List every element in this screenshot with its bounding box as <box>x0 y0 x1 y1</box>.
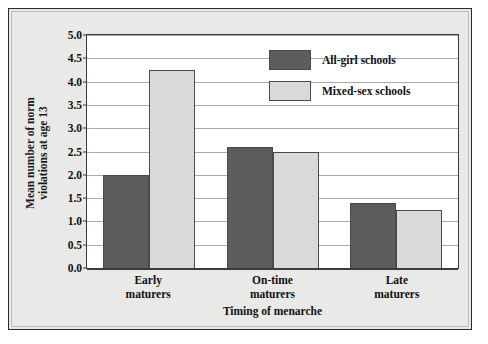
y-axis-title: Mean number of norm violations at age 13 <box>23 37 51 269</box>
y-axis-tick-label: 2.0 <box>68 169 82 181</box>
y-axis-tick-label: 4.0 <box>68 76 82 88</box>
legend-swatch-icon <box>269 81 311 101</box>
x-axis-tick-label: On-time maturers <box>210 273 334 301</box>
y-axis-tick-label: 2.5 <box>68 146 82 158</box>
figure-panel: Mean number of norm violations at age 13… <box>8 8 472 330</box>
y-axis-tick-label: 3.0 <box>68 122 82 134</box>
gridline <box>87 268 458 270</box>
bar-group <box>87 35 211 268</box>
y-axis-tick-label: 0.5 <box>68 239 82 251</box>
y-axis-tick-label: 1.0 <box>68 215 82 227</box>
legend-item-label: All-girl schools <box>322 54 396 66</box>
bar <box>350 203 396 268</box>
bar <box>149 70 195 268</box>
legend-item-mixed-sex-schools: Mixed-sex schools <box>269 81 410 101</box>
legend: All-girl schools Mixed-sex schools <box>269 50 410 101</box>
x-axis-title: Timing of menarche <box>86 305 459 317</box>
bar <box>396 210 442 268</box>
legend-item-label: Mixed-sex schools <box>322 85 410 97</box>
legend-swatch-icon <box>269 50 311 70</box>
y-axis-tick-label: 5.0 <box>68 29 82 41</box>
plot-area: 0.00.51.01.52.02.53.03.54.04.55.0 All-gi… <box>86 34 459 269</box>
x-axis-tick-label: Early maturers <box>86 273 210 301</box>
x-axis-tick-label: Late maturers <box>335 273 459 301</box>
bar <box>273 152 319 269</box>
bar <box>227 147 273 268</box>
x-axis-tick-labels: Early maturersOn-time maturersLate matur… <box>86 273 459 301</box>
y-axis-tick-label: 4.5 <box>68 52 82 64</box>
y-axis-tick-label: 1.5 <box>68 192 82 204</box>
legend-item-all-girl-schools: All-girl schools <box>269 50 410 70</box>
bar <box>103 175 149 268</box>
y-axis-tick-label: 3.5 <box>68 99 82 111</box>
y-axis-tick-label: 0.0 <box>68 262 82 274</box>
